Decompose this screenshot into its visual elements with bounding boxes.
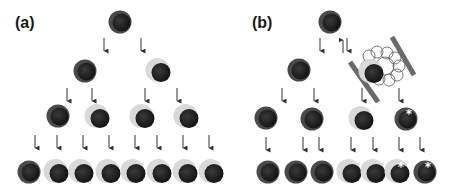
stem-cell [109, 11, 132, 34]
differentiated-cell [349, 106, 374, 130]
stem-cell [288, 59, 311, 82]
panel-a-label: (a) [15, 14, 35, 31]
differentiated-cell [361, 159, 386, 183]
stem-cell [47, 105, 70, 128]
diagram-canvas: (a) (b) *** [0, 0, 452, 193]
stem-cell [301, 108, 324, 131]
differentiated-cell [121, 159, 146, 183]
panel-a: (a) [15, 11, 224, 184]
differentiated-cell [44, 159, 69, 183]
differentiated-cell [96, 159, 121, 183]
stem-cell [18, 161, 41, 184]
differentiated-cell [337, 159, 362, 183]
panel-b: (b) *** [252, 11, 437, 184]
stem-cell-marked: * [395, 107, 418, 131]
asterisk-marker-icon: * [425, 160, 432, 174]
differentiated-cell [130, 104, 155, 128]
panel-a-cells [18, 11, 224, 184]
asterisk-marker-icon: * [406, 107, 413, 121]
stem-cell [257, 161, 280, 184]
asterisk-marker-icon: * [398, 160, 405, 174]
panel-b-label: (b) [252, 14, 272, 31]
differentiated-cell [147, 159, 172, 183]
differentiated-cell [173, 159, 198, 183]
differentiated-cell [359, 59, 384, 83]
differentiated-cell [69, 159, 94, 183]
panel-b-arrows [266, 38, 420, 150]
differentiated-cell [174, 104, 199, 128]
differentiated-cell [85, 104, 110, 128]
stem-cell [285, 161, 308, 184]
differentiated-cell-marked: * [385, 159, 410, 183]
panel-a-arrows [35, 38, 209, 148]
stem-cell [74, 60, 97, 83]
stem-cell-marked: * [414, 160, 437, 184]
stem-cell [255, 107, 278, 130]
stem-cell [311, 161, 334, 184]
differentiated-cell [146, 58, 171, 82]
stem-cell [319, 11, 342, 34]
differentiated-cell [199, 159, 224, 183]
